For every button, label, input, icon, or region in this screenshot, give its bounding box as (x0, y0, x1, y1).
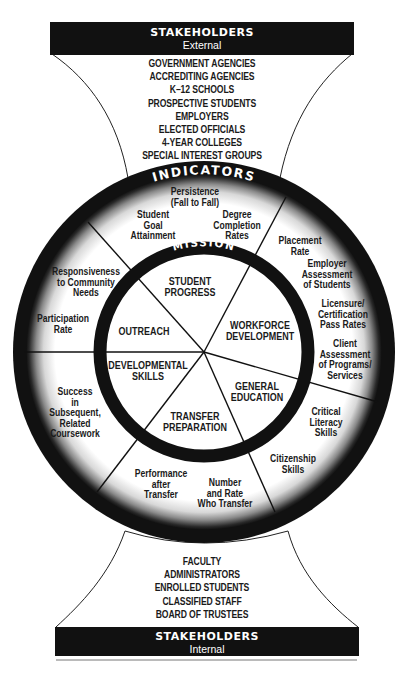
external-stakeholders-list: GOVERNMENT AGENCIES ACCREDITING AGENCIES… (116, 57, 288, 163)
indicator-licensure: Licensure/CertificationPass Rates (318, 299, 368, 331)
list-item: K–12 SCHOOLS (116, 83, 288, 96)
indicator-performance-after-transfer: PerformanceafterTransfer (135, 469, 188, 501)
mission-developmental-skills: DEVELOPMENTALSKILLS (108, 361, 188, 382)
internal-stakeholders-banner: STAKEHOLDERS Internal (55, 627, 359, 656)
list-item: CLASSIFIED STAFF (133, 595, 271, 608)
list-item: 4-YEAR COLLEGES (116, 136, 288, 149)
indicator-citizenship: CitizenshipSkills (270, 454, 316, 475)
indicator-employer-assessment: EmployerAssessmentof Students (302, 259, 353, 291)
indicator-degree-completion: DegreeCompletionRates (213, 210, 260, 242)
list-item: GOVERNMENT AGENCIES (116, 57, 288, 70)
external-stakeholders-banner: STAKEHOLDERS External (50, 22, 354, 55)
external-stakeholders-title: STAKEHOLDERS (50, 26, 354, 39)
list-item: ACCREDITING AGENCIES (116, 70, 288, 83)
list-item: ADMINISTRATORS (133, 568, 271, 581)
internal-stakeholders-title: STAKEHOLDERS (55, 630, 359, 643)
indicator-goal-attainment: StudentGoalAttainment (131, 210, 176, 242)
mission-student-progress: STUDENTPROGRESS (165, 277, 216, 298)
indicator-participation: ParticipationRate (37, 314, 89, 335)
internal-stakeholders-list: FACULTY ADMINISTRATORS ENROLLED STUDENTS… (133, 555, 271, 621)
list-item: EMPLOYERS (116, 110, 288, 123)
indicator-number-rate-transfer: Numberand RateWho Transfer (198, 478, 253, 510)
mission-outreach: OUTREACH (119, 327, 170, 338)
list-item: BOARD OF TRUSTEES (133, 608, 271, 621)
list-item: PROSPECTIVE STUDENTS (116, 97, 288, 110)
indicator-client-assessment: ClientAssessmentof Programs/Services (318, 339, 371, 381)
external-stakeholders-subtitle: External (50, 39, 354, 51)
internal-stakeholders-subtitle: Internal (55, 643, 359, 655)
mission-workforce-development: WORKFORCEDEVELOPMENT (226, 321, 294, 342)
mission-general-education: GENERALEDUCATION (231, 382, 284, 403)
indicator-success-subsequent: SuccessinSubsequent,RelatedCoursework (49, 387, 101, 440)
list-item: SPECIAL INTEREST GROUPS (116, 149, 288, 162)
indicator-persistence: Persistence(Fall to Fall) (171, 187, 219, 208)
list-item: ENROLLED STUDENTS (133, 581, 271, 594)
indicator-critical-literacy: CriticalLiteracySkills (310, 407, 343, 439)
indicator-responsiveness: Responsivenessto CommunityNeeds (52, 267, 120, 299)
list-item: FACULTY (133, 555, 271, 568)
mission-transfer-preparation: TRANSFERPREPARATION (163, 412, 227, 433)
list-item: ELECTED OFFICIALS (116, 123, 288, 136)
indicator-placement: PlacementRate (278, 236, 321, 257)
